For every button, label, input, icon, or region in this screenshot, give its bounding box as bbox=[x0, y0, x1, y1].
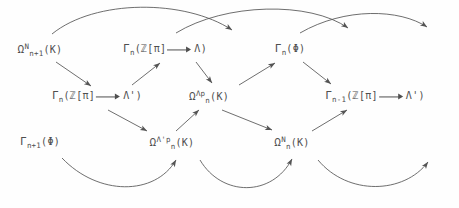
node-symbol: Γ bbox=[123, 42, 130, 55]
node-gamma-n-zpi-lambda: Γn(ℤ[π]Λ) bbox=[123, 43, 207, 56]
inline-map-arrow-icon bbox=[96, 93, 122, 100]
node-subscript: n-1 bbox=[332, 95, 346, 104]
diag-3 bbox=[196, 62, 212, 83]
node-subscript: n+1 bbox=[27, 141, 41, 150]
node-symbol: Γ bbox=[325, 89, 332, 102]
node-symbol: Γ bbox=[275, 42, 282, 55]
node-gamma-n1-phi: Γn+1(Φ) bbox=[20, 136, 60, 149]
node-symbol: Ω bbox=[18, 43, 25, 56]
node-argument: (K) bbox=[175, 137, 194, 148]
arc-top-3 bbox=[300, 13, 427, 33]
diag-2 bbox=[132, 63, 160, 85]
node-argument: (Φ) bbox=[41, 136, 60, 147]
arc-bot-3 bbox=[318, 160, 428, 187]
node-symbol: Ω bbox=[150, 136, 157, 149]
node-argument: (K) bbox=[291, 137, 310, 148]
node-argument: (Φ) bbox=[286, 43, 305, 54]
node-superscript: Λp bbox=[196, 89, 205, 98]
diag-7 bbox=[176, 110, 199, 131]
diag-6 bbox=[108, 110, 147, 131]
node-symbol: Ω bbox=[274, 136, 281, 149]
node-argument-right: Λ) bbox=[194, 43, 207, 54]
arc-top-2 bbox=[176, 9, 348, 33]
arc-top-1 bbox=[52, 7, 232, 34]
node-argument-left: (ℤ[π] bbox=[64, 90, 96, 101]
diag-5 bbox=[303, 62, 331, 84]
node-argument: (K) bbox=[210, 91, 229, 102]
node-subscript: n+1 bbox=[29, 49, 43, 58]
arc-bot-1 bbox=[62, 158, 176, 187]
node-argument-right: Λ') bbox=[406, 90, 425, 101]
arc-bot-2 bbox=[200, 159, 292, 188]
node-omega-N-n1-K: ΩNn+1(K) bbox=[18, 43, 63, 57]
arrow-layer bbox=[0, 0, 459, 208]
diag-9 bbox=[312, 110, 347, 131]
node-symbol: Ω bbox=[189, 90, 196, 103]
diag-4 bbox=[239, 63, 275, 85]
inline-map-arrow-icon bbox=[167, 46, 193, 53]
node-argument-left: (ℤ[π] bbox=[135, 43, 167, 54]
node-argument: (K) bbox=[43, 44, 62, 55]
inline-map-arrow-icon bbox=[379, 93, 405, 100]
node-argument-right: Λ') bbox=[123, 90, 142, 101]
node-omega-lambdap-n-K: ΩΛpn(K) bbox=[189, 90, 229, 104]
node-omega-N-n-K: ΩNn(K) bbox=[274, 136, 309, 150]
node-symbol: Γ bbox=[52, 89, 59, 102]
node-argument-left: (ℤ[π] bbox=[346, 90, 378, 101]
braid-diagram: ΩNn+1(K) Γn(ℤ[π]Λ) Γn(Φ) Γn(ℤ[π]Λ') ΩΛpn… bbox=[0, 0, 459, 208]
node-gamma-n-phi: Γn(Φ) bbox=[275, 43, 306, 56]
diag-8 bbox=[222, 110, 272, 130]
diag-1 bbox=[56, 62, 91, 86]
node-symbol: Γ bbox=[20, 135, 27, 148]
node-gamma-n-zpi-lambda-prime: Γn(ℤ[π]Λ') bbox=[52, 90, 142, 103]
node-superscript: Λ'p bbox=[157, 135, 171, 144]
node-gamma-n-1-zpi-lambda-prime: Γn-1(ℤ[π]Λ') bbox=[325, 90, 425, 103]
node-omega-lambda-prime-p-n-K: ΩΛ'pn(K) bbox=[150, 136, 195, 150]
